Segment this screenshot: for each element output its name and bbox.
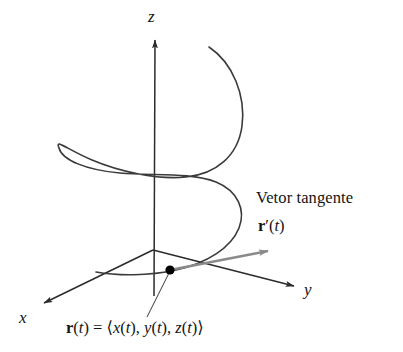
figure-canvas (0, 0, 403, 352)
helix-curve (58, 47, 243, 275)
helix-tangent-vector-figure: z x y Vetor tangente r′(t) r(t) = ⟨x(t),… (0, 0, 403, 352)
leader-line (147, 273, 169, 317)
tangent-vector-symbol: r′(t) (258, 218, 285, 235)
equation-equals: = (93, 318, 102, 337)
equation-close-angle: ⟩ (197, 318, 203, 337)
z-axis (154, 40, 155, 296)
point-marker (165, 265, 174, 274)
vector-function-equation: r(t) = ⟨x(t), y(t), z(t)⟩ (66, 320, 204, 337)
x-axis-label: x (19, 309, 27, 326)
y-axis-label: y (304, 281, 312, 298)
x-axis (44, 250, 153, 303)
tangent-vector-caption: Vetor tangente (256, 190, 353, 207)
z-axis-label: z (148, 8, 155, 25)
